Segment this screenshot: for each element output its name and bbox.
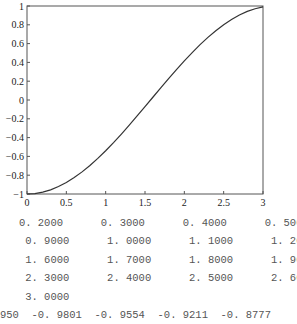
x-tick-label: 3 [261, 197, 266, 208]
console-output-row: 2. 3000 2. 4000 2. 5000 2. 6000 2. 7000 [0, 272, 297, 284]
x-tick-label: 1 [103, 197, 108, 208]
y-tick-label: 0.2 [12, 76, 25, 87]
y-tick-label: −0.4 [6, 132, 24, 143]
x-tick-label: 2 [182, 197, 187, 208]
x-tick-label: 1.5 [139, 197, 152, 208]
x-tick-label: 0.5 [60, 197, 73, 208]
y-tick-label: −0.8 [6, 170, 24, 181]
console-output-row: 950 -0. 9801 -0. 9554 -0. 9211 -0. 8777 [0, 309, 271, 321]
y-tick-label: 1 [19, 1, 24, 12]
console-output-row: 3. 0000 [0, 291, 69, 303]
plot-axes [27, 6, 263, 194]
axis-ticks [27, 6, 263, 194]
y-tick-label: −0.6 [6, 151, 24, 162]
y-tick-label: −1 [13, 189, 24, 200]
console-output-row: 1. 6000 1. 7000 1. 8000 1. 9000 2. 0000 [0, 254, 297, 266]
y-tick-label: 0.6 [12, 38, 25, 49]
console-output-row: 0. 2000 0. 3000 0. 4000 0. 5000 0. 6000 [0, 217, 297, 229]
y-tick-label: 0.4 [12, 57, 25, 68]
x-tick-label: 2.5 [217, 197, 230, 208]
line-chart: 00.511.522.5310.80.60.40.20−0.2−0.4−0.6−… [0, 0, 297, 210]
console-output-row: 0. 9000 1. 0000 1. 1000 1. 2000 1. 3000 [0, 235, 297, 247]
y-tick-label: 0 [19, 95, 24, 106]
y-tick-label: 0.8 [12, 19, 25, 30]
y-tick-label: −0.2 [6, 113, 24, 124]
data-line [27, 7, 263, 194]
tick-labels: 00.511.522.5310.80.60.40.20−0.2−0.4−0.6−… [6, 1, 266, 209]
x-tick-label: 0 [25, 197, 30, 208]
